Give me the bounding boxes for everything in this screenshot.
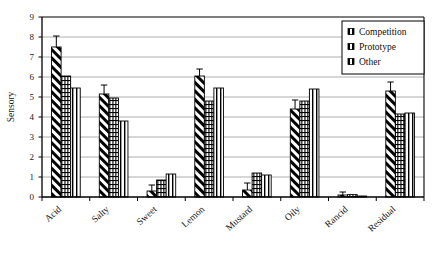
y-tick-label: 6 bbox=[30, 72, 35, 82]
chart-canvas: 0123456789 AcidSaltySweetLemonMustardOil… bbox=[0, 0, 443, 258]
bar bbox=[118, 121, 128, 197]
bar bbox=[109, 98, 119, 197]
legend-swatch bbox=[348, 44, 354, 50]
y-tick-label: 1 bbox=[30, 172, 35, 182]
bar bbox=[300, 101, 310, 197]
legend-label: Other bbox=[359, 57, 381, 67]
bar bbox=[99, 94, 109, 197]
bar bbox=[243, 190, 253, 197]
y-axis-title: Sensory bbox=[6, 91, 16, 122]
bar bbox=[195, 76, 205, 197]
bar bbox=[386, 91, 396, 197]
sensory-bar-chart: 0123456789 AcidSaltySweetLemonMustardOil… bbox=[0, 0, 443, 258]
bar bbox=[61, 76, 71, 197]
bar bbox=[157, 180, 167, 197]
y-tick-label: 7 bbox=[30, 52, 35, 62]
y-tick-label: 4 bbox=[30, 112, 35, 122]
bar bbox=[290, 109, 300, 197]
y-tick-label: 9 bbox=[30, 12, 35, 22]
bar bbox=[204, 101, 214, 197]
bar bbox=[166, 174, 176, 197]
bar bbox=[262, 175, 272, 197]
bar bbox=[252, 173, 262, 197]
legend-label: Competition bbox=[359, 27, 407, 37]
bar bbox=[405, 113, 415, 197]
legend-label: Prototype bbox=[359, 42, 396, 52]
bar bbox=[214, 88, 224, 197]
bar bbox=[52, 47, 62, 197]
y-tick-label: 0 bbox=[30, 192, 35, 202]
y-tick-label: 2 bbox=[30, 152, 35, 162]
bar bbox=[147, 191, 157, 197]
y-tick-label: 3 bbox=[30, 132, 35, 142]
y-tick-label: 5 bbox=[30, 92, 35, 102]
y-tick-label: 8 bbox=[30, 32, 35, 42]
bar bbox=[309, 89, 319, 197]
chart-legend: CompetitionPrototypeOther bbox=[342, 21, 424, 74]
legend-swatch bbox=[348, 29, 354, 35]
bar bbox=[71, 88, 81, 197]
bar bbox=[395, 114, 405, 197]
legend-swatch bbox=[348, 59, 354, 65]
